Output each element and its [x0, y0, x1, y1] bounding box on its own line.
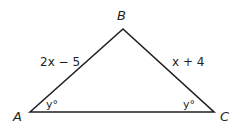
- angle-label-c: y°: [183, 98, 195, 111]
- side-label-bc: x + 4: [172, 55, 204, 69]
- vertex-label-a: A: [12, 109, 22, 124]
- angle-label-a: y°: [46, 98, 58, 111]
- side-label-ab: 2x − 5: [40, 55, 80, 69]
- vertex-label-c: C: [220, 109, 230, 124]
- triangle-diagram: A B C 2x − 5 x + 4 y° y°: [0, 0, 240, 129]
- vertex-label-b: B: [117, 8, 126, 23]
